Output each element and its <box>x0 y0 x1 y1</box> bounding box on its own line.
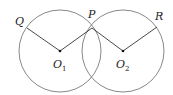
segment-p-o2 <box>92 28 123 51</box>
label-p: P <box>87 8 96 21</box>
label-q: Q <box>15 15 24 28</box>
center-point-o1 <box>59 50 62 53</box>
label-o1: O1 <box>53 58 67 73</box>
segment-q-o1 <box>27 28 60 51</box>
geometry-diagram: Q P R O1 O2 <box>0 0 173 95</box>
label-o2: O2 <box>116 58 130 73</box>
segment-o1-p <box>60 28 92 51</box>
segment-o2-r <box>123 27 157 51</box>
center-point-o2 <box>122 50 125 53</box>
label-r: R <box>154 10 163 23</box>
